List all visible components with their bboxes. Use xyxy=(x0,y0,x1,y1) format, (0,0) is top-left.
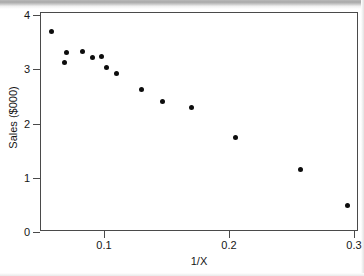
y-axis-tick-label: 0 xyxy=(2,227,30,238)
y-axis-tick xyxy=(33,15,40,16)
x-axis-title: 1/X xyxy=(0,256,364,267)
plot-area xyxy=(40,12,358,231)
data-point xyxy=(104,65,109,70)
x-axis-tick-label: 0.3 xyxy=(334,240,364,251)
scan-artifact-band-fade xyxy=(0,6,364,9)
y-axis-title: Sales ($000) xyxy=(8,58,19,178)
data-point xyxy=(139,87,144,92)
x-axis-tick xyxy=(229,231,230,238)
data-point xyxy=(49,29,54,34)
data-point xyxy=(160,99,165,104)
data-point xyxy=(64,50,69,55)
data-point xyxy=(80,49,85,54)
data-point xyxy=(189,105,194,110)
y-axis-tick-label: 4 xyxy=(2,10,30,21)
x-axis-tick-label: 0.1 xyxy=(84,240,124,251)
data-point xyxy=(62,60,67,65)
y-axis-tick xyxy=(33,69,40,70)
data-point xyxy=(114,71,119,76)
data-point xyxy=(233,135,238,140)
x-axis-tick xyxy=(354,231,355,238)
data-point xyxy=(99,54,104,59)
scatter-plot-figure: 43210 0.10.20.3 1/X Sales ($000) xyxy=(0,0,364,276)
x-axis-title-text: 1/X xyxy=(191,255,208,267)
y-axis-tick xyxy=(33,124,40,125)
data-point xyxy=(345,203,350,208)
x-axis-tick xyxy=(104,231,105,238)
data-point xyxy=(298,167,303,172)
data-point xyxy=(90,55,95,60)
y-axis-tick xyxy=(33,178,40,179)
x-axis-tick-label: 0.2 xyxy=(209,240,249,251)
y-axis-tick xyxy=(33,232,40,233)
